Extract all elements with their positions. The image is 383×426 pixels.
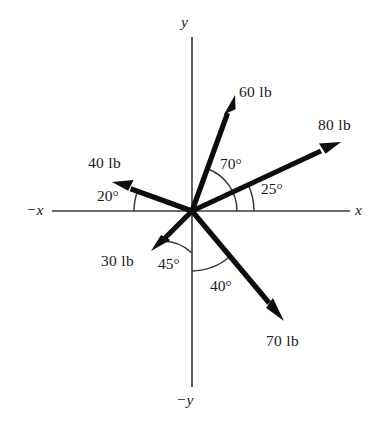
angle-label-45: 45° (158, 256, 180, 272)
force-label-30lb: 30 lb (101, 253, 134, 269)
vector-60lb-arrowhead (224, 95, 236, 115)
angle-label-20: 20° (97, 188, 119, 204)
vector-30lb (151, 211, 192, 251)
angle-label-40: 40° (210, 278, 232, 294)
axis-label-y-negative: −y (176, 392, 193, 408)
vector-diagram-canvas (0, 0, 383, 426)
angle-arc-20 (134, 191, 137, 211)
vector-80lb-arrowhead (319, 142, 341, 154)
force-label-40lb: 40 lb (88, 155, 121, 171)
angle-arc-25 (248, 185, 254, 211)
angle-arc-40 (192, 256, 231, 271)
force-label-70lb: 70 lb (266, 333, 299, 349)
axis-label-x-negative: −x (26, 202, 43, 218)
vector-40lb (112, 180, 192, 211)
angle-arc-45 (162, 241, 192, 253)
vector-70lb (192, 211, 284, 321)
force-label-60lb: 60 lb (239, 84, 272, 100)
angle-label-25: 25° (261, 181, 283, 197)
angle-label-70: 70° (220, 156, 242, 172)
force-vector-figure: y −y −x x 60 lb 80 lb 40 lb 30 lb 70 lb … (0, 0, 383, 426)
vector-40lb-shaft (131, 189, 192, 211)
axis-label-x-positive: x (355, 202, 362, 218)
axis-label-y-positive: y (181, 14, 188, 30)
force-label-80lb: 80 lb (318, 117, 351, 133)
vector-30lb-shaft (164, 211, 192, 239)
